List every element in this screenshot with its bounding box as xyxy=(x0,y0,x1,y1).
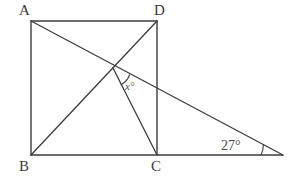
angle-label-x: x° xyxy=(125,81,134,92)
vertex-label-c: C xyxy=(151,159,161,174)
vertex-label-b: B xyxy=(19,159,29,174)
vertex-label-d: D xyxy=(154,3,165,18)
geometry-figure: A D B C x° 27° xyxy=(0,0,293,184)
vertex-label-a: A xyxy=(19,3,30,18)
segment-pc xyxy=(113,68,157,155)
angle-label-27: 27° xyxy=(221,139,241,153)
geometry-canvas xyxy=(0,0,293,184)
angle-arc-27 xyxy=(261,145,263,155)
segment-bd-diagonal xyxy=(31,21,157,155)
